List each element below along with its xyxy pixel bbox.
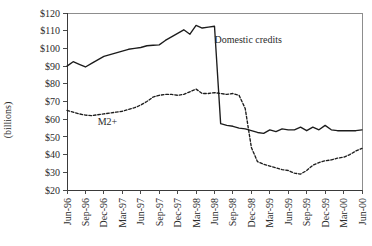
data-series-group: [67, 25, 362, 174]
x-tick-label: Dec-98: [246, 198, 257, 227]
y-tick-label: $110: [40, 25, 60, 36]
y-tick-label: $40: [45, 149, 60, 160]
series-annotation-domestic-credits: Domestic credits: [215, 34, 283, 45]
x-tick-label: Sep-97: [154, 198, 165, 226]
chart-figure: $120$110$100$90$80$70$60$50$40$30$20 Jun…: [0, 0, 372, 246]
x-tick-label: Jun-99: [283, 198, 294, 225]
line-chart-svg: $120$110$100$90$80$70$60$50$40$30$20 Jun…: [0, 0, 372, 246]
x-tick-label: Sep-98: [227, 198, 238, 226]
y-tick-label: $70: [45, 96, 60, 107]
y-tick-label: $80: [45, 78, 60, 89]
y-tick-label: $90: [45, 61, 60, 72]
series-annotations: Domestic creditsM2+: [98, 34, 282, 126]
x-tick-label: Mar-98: [191, 198, 202, 228]
x-tick-label: Mar-00: [338, 198, 349, 228]
y-tick-label: $50: [45, 132, 60, 143]
y-tick-label: $60: [45, 114, 60, 125]
y-tick-label: $30: [45, 167, 60, 178]
x-tick-label: Jun-98: [209, 198, 220, 225]
y-axis-title: (billions): [2, 102, 14, 139]
x-tick-label: Dec-97: [172, 198, 183, 227]
y-tick-label: $20: [45, 185, 60, 196]
y-tick-label: $100: [40, 43, 60, 54]
x-tick-label: Jun-00: [357, 198, 368, 225]
x-tick-label: Mar-99: [264, 198, 275, 228]
x-tick-label: Dec-99: [320, 198, 331, 227]
y-tick-label: $120: [40, 8, 60, 19]
y-axis-ticks: $120$110$100$90$80$70$60$50$40$30$20: [40, 8, 67, 196]
x-tick-label: Jun-97: [135, 198, 146, 225]
x-tick-label: Sep-99: [301, 198, 312, 226]
x-axis-ticks: Jun-96Sep-96Dec-96Mar-97Jun-97Sep-97Dec-…: [62, 190, 368, 228]
x-tick-label: Mar-97: [117, 198, 128, 228]
series-line-m2: [67, 89, 362, 174]
x-tick-label: Dec-96: [98, 198, 109, 227]
series-annotation-m2: M2+: [98, 116, 118, 127]
x-tick-label: Sep-96: [80, 198, 91, 226]
x-tick-label: Jun-96: [62, 198, 73, 225]
